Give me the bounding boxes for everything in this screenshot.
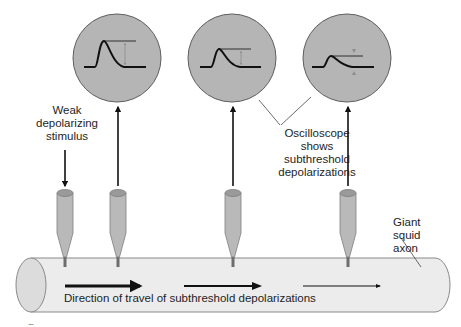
axon-cut-end [16,258,46,312]
stimulus-label-line-2: depolarizing [30,117,104,130]
oscilloscope-label-line-4: depolarizations [262,166,372,179]
oscilloscope-label-line-3: subthreshold [262,153,372,166]
stimulus-label-line-3: stimulus [30,130,104,143]
axon-label-line-1: Giant [393,216,433,229]
stimulus-label: Weak depolarizing stimulus [30,104,104,143]
oscilloscope-2 [188,14,276,102]
oscilloscope-leader-left [259,100,280,125]
axon-label-line-2: squid [393,229,433,242]
electrode-recording-1 [110,190,126,268]
axon-label-line-3: axon [393,242,433,255]
electrode-stimulating [57,190,73,268]
oscilloscope-label-line-2: shows [262,140,372,153]
oscilloscope-label: Oscilloscope shows subthreshold depolari… [262,127,372,179]
squid-axon-diagram [0,0,461,327]
oscilloscope-3 [303,14,391,102]
oscilloscope-leader-right [281,97,311,125]
direction-label: Direction of travel of subthreshold depo… [64,292,384,305]
electrode-recording-3 [340,190,356,268]
oscilloscope-label-line-1: Oscilloscope [262,127,372,140]
oscilloscope-1 [73,14,161,102]
figure-mark: – [26,318,36,327]
stimulus-label-line-1: Weak [30,104,104,117]
axon-label: Giant squid axon [393,216,433,255]
electrode-recording-2 [225,190,241,268]
